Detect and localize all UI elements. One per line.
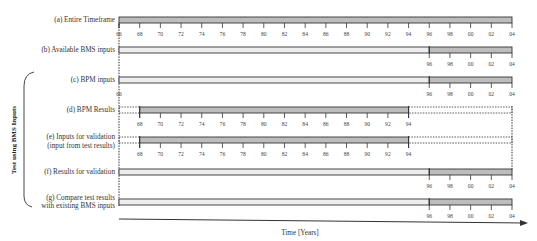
label-entire-timeframe: (a) Entire Timeframe — [54, 16, 115, 24]
timeline-diagram: (a) Entire Timeframe (b) Available BMS i… — [0, 0, 537, 241]
bracket — [24, 72, 34, 207]
tick-label: 98 — [447, 31, 453, 37]
tick-label: 78 — [240, 151, 246, 157]
tick-label: 94 — [406, 121, 412, 127]
tick-label: 88 — [344, 151, 350, 157]
tick-label: 98 — [447, 61, 453, 67]
tick-label: 72 — [178, 31, 184, 37]
bar-segment-dark — [140, 107, 409, 113]
bar-segment-dotted — [409, 107, 512, 113]
tick-label: 98 — [447, 213, 453, 219]
tick-label: 68 — [137, 31, 143, 37]
tick-label: 96 — [426, 183, 432, 189]
tick-label: 88 — [344, 31, 350, 37]
label-compare-test-results: (g) Compare test results — [46, 194, 115, 202]
tick-label: 96 — [426, 213, 432, 219]
tick-label: 82 — [282, 121, 288, 127]
tick-label: 74 — [199, 31, 205, 37]
label-with-existing-bms-inputs: with existing BMS inputs — [41, 202, 115, 210]
tick-label: 72 — [178, 121, 184, 127]
tick-label: 86 — [323, 31, 329, 37]
side-label: Test using BMS Inputs — [10, 106, 18, 174]
tick-label: 04 — [509, 183, 515, 189]
time-axis — [119, 219, 526, 223]
tick-label: 04 — [509, 91, 515, 97]
label-input-from-test-results: (input from test results) — [47, 142, 115, 150]
tick-label: 76 — [220, 31, 226, 37]
tick-label: 02 — [489, 31, 495, 37]
tick-label: 96 — [426, 91, 432, 97]
bar-segment-dark — [429, 77, 512, 83]
label-bpm-inputs: (c) BPM inputs — [71, 76, 116, 84]
tick-label: 00 — [468, 31, 474, 37]
tick-label: 80 — [261, 121, 267, 127]
bar-segment-light — [119, 199, 429, 205]
bar-segment-dotted — [119, 137, 140, 143]
tick-label: 66 — [116, 31, 122, 37]
tick-label: 78 — [240, 121, 246, 127]
bar-segment-light — [119, 169, 429, 175]
tick-label: 00 — [468, 91, 474, 97]
bar-segment-dark — [140, 137, 409, 143]
axis-arrow-icon — [520, 220, 528, 226]
tick-label: 86 — [323, 121, 329, 127]
bar-segment-light — [119, 47, 429, 53]
tick-label: 66 — [116, 91, 122, 97]
tick-label: 00 — [468, 61, 474, 67]
bar-segment-light — [119, 77, 429, 83]
bar-segment-dark — [429, 169, 512, 175]
tick-label: 02 — [489, 61, 495, 67]
tick-label: 98 — [447, 91, 453, 97]
tick-label: 76 — [220, 151, 226, 157]
tick-label: 68 — [137, 151, 143, 157]
tick-label: 90 — [364, 121, 370, 127]
tick-label: 82 — [282, 151, 288, 157]
tick-label: 86 — [323, 151, 329, 157]
tick-label: 82 — [282, 31, 288, 37]
tick-label: 92 — [385, 31, 391, 37]
tick-label: 90 — [364, 31, 370, 37]
bar-segment-dotted — [119, 107, 140, 113]
tick-label: 90 — [364, 151, 370, 157]
tick-label: 74 — [199, 121, 205, 127]
tick-label: 88 — [344, 121, 350, 127]
label-results-for-validation: (f) Results for validation — [44, 168, 115, 176]
tick-label: 70 — [158, 151, 164, 157]
tick-label: 68 — [137, 121, 143, 127]
tick-label: 00 — [468, 213, 474, 219]
tick-label: 92 — [385, 121, 391, 127]
tick-label: 94 — [406, 31, 412, 37]
tick-label: 04 — [509, 31, 515, 37]
bar-segment-dotted — [409, 137, 512, 143]
tick-label: 94 — [406, 151, 412, 157]
tick-label: 78 — [240, 31, 246, 37]
tick-label: 84 — [302, 31, 308, 37]
bar-segment-dark — [429, 199, 512, 205]
tick-label: 92 — [385, 151, 391, 157]
tick-label: 70 — [158, 31, 164, 37]
tick-label: 02 — [489, 213, 495, 219]
tick-label: 80 — [261, 151, 267, 157]
label-bpm-results: (d) BPM Results — [67, 106, 116, 114]
tick-label: 98 — [447, 183, 453, 189]
tick-label: 00 — [468, 183, 474, 189]
tick-label: 70 — [158, 121, 164, 127]
tick-label: 04 — [509, 61, 515, 67]
tick-label: 84 — [302, 121, 308, 127]
tick-label: 96 — [426, 31, 432, 37]
axis-label: Time [Years] — [281, 229, 319, 237]
label-available-bms-inputs: (b) Available BMS inputs — [41, 46, 115, 54]
tick-label: 80 — [261, 31, 267, 37]
tick-label: 04 — [509, 213, 515, 219]
tick-label: 72 — [178, 151, 184, 157]
tick-label: 02 — [489, 91, 495, 97]
tick-label: 84 — [302, 151, 308, 157]
bar-segment-dark — [429, 47, 512, 53]
bar-segment-dark — [119, 17, 512, 23]
tick-label: 76 — [220, 121, 226, 127]
tick-label: 74 — [199, 151, 205, 157]
tick-label: 96 — [426, 61, 432, 67]
label-inputs-for-validation: (e) Inputs for validation — [47, 133, 116, 141]
bars — [119, 17, 512, 205]
tick-label: 02 — [489, 183, 495, 189]
